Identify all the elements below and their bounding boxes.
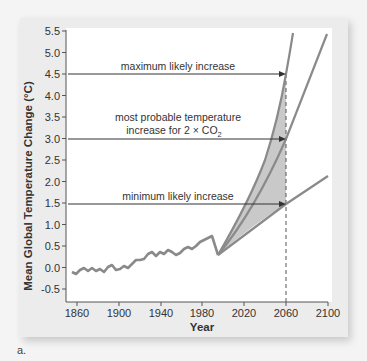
svg-text:5.0: 5.0 [45, 47, 60, 59]
annotation-mid-line1: most probable temperature [115, 111, 241, 123]
svg-text:1.5: 1.5 [45, 197, 60, 209]
figure-label: a. [17, 344, 26, 356]
svg-text:2.5: 2.5 [45, 154, 60, 166]
svg-text:5.5: 5.5 [45, 25, 60, 37]
svg-text:1980: 1980 [190, 307, 214, 319]
svg-text:1860: 1860 [65, 307, 89, 319]
y-axis-title: Mean Global Temperature Change (°C) [22, 81, 34, 291]
svg-text:1900: 1900 [107, 307, 131, 319]
temperature-chart: maximum likely increase most probable te… [0, 0, 367, 361]
svg-text:4.0: 4.0 [45, 90, 60, 102]
x-axis-title: Year [190, 321, 215, 333]
x-tick-labels: 1860 1900 1940 1980 2020 2060 2100 [65, 307, 340, 319]
x-ticks [77, 302, 328, 306]
svg-text:0.0: 0.0 [45, 262, 60, 274]
svg-text:1940: 1940 [149, 307, 173, 319]
svg-text:3.5: 3.5 [45, 111, 60, 123]
svg-text:2100: 2100 [316, 307, 340, 319]
svg-text:3.0: 3.0 [45, 133, 60, 145]
svg-text:2.0: 2.0 [45, 176, 60, 188]
svg-text:4.5: 4.5 [45, 68, 60, 80]
annotation-max: maximum likely increase [121, 60, 236, 72]
y-ticks [62, 31, 66, 289]
svg-text:0.5: 0.5 [45, 240, 60, 252]
y-tick-labels: 5.5 5.0 4.5 4.0 3.5 3.0 2.5 2.0 1.5 1.0 … [41, 25, 60, 295]
svg-text:2020: 2020 [232, 307, 256, 319]
svg-text:2060: 2060 [274, 307, 298, 319]
annotation-min: minimum likely increase [122, 190, 234, 202]
svg-text:-0.5: -0.5 [41, 283, 60, 295]
svg-text:1.0: 1.0 [45, 219, 60, 231]
